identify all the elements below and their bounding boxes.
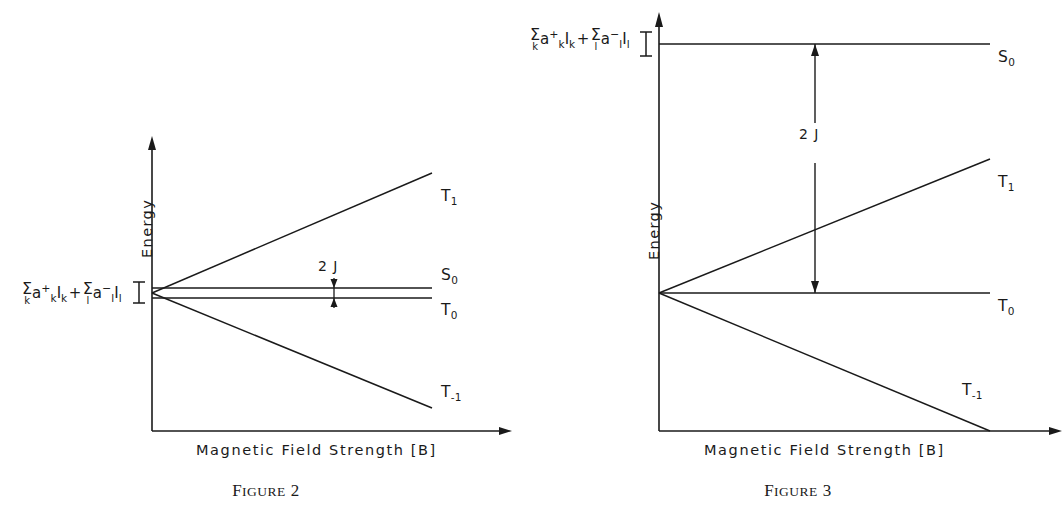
level-line-T-minus-1 [152, 293, 432, 408]
zero-field-energy-expression: Σ k a+kIk + Σ l a−lIl [22, 282, 122, 305]
term-a-plus-k: a+kIk [32, 283, 67, 304]
sigma-l: Σ l [591, 28, 601, 51]
figure-3-plot [532, 0, 1064, 470]
coupling-arrow-2J [331, 278, 338, 308]
plus-operator: + [577, 32, 590, 47]
level-line-T1 [659, 159, 990, 293]
figure-2-caption: FIGURE2 [0, 481, 532, 501]
state-label-S0: S0 [441, 268, 458, 286]
level-line-T-minus-1 [659, 293, 990, 431]
state-label-S0: S0 [998, 50, 1015, 68]
term-a-minus-l: a−lIl [601, 29, 630, 50]
x-axis-label: Magnetic Field Strength [B] [196, 443, 437, 458]
zero-field-bracket [640, 32, 652, 56]
figure-2: Energy Magnetic Field Strength [B] Σ k a… [0, 0, 532, 527]
coupling-label-2J: 2 J [318, 259, 339, 273]
state-label-T1: T1 [998, 175, 1015, 193]
y-axis-label: Energy [647, 201, 662, 260]
term-a-plus-k: a+kIk [540, 29, 575, 50]
figure-3-caption: FIGURE3 [532, 481, 1064, 501]
sigma-k: Σ k [530, 28, 540, 51]
x-axis-label: Magnetic Field Strength [B] [704, 443, 945, 458]
state-label-T1: T1 [441, 189, 458, 207]
figure-3: Energy Magnetic Field Strength [B] Σ k a… [532, 0, 1064, 527]
coupling-arrow-2J [811, 44, 819, 293]
state-label-T-minus-1: T-1 [962, 383, 983, 401]
y-axis [148, 136, 156, 431]
state-label-T0: T0 [998, 299, 1015, 317]
term-a-minus-l: a−lIl [93, 283, 122, 304]
state-label-T0: T0 [441, 303, 458, 321]
y-axis-label: Energy [140, 199, 155, 258]
zero-field-bracket [133, 282, 145, 303]
x-axis [152, 427, 512, 435]
sigma-l: Σ l [83, 282, 93, 305]
coupling-label-2J: 2 J [799, 127, 820, 141]
x-axis [659, 427, 1062, 435]
level-line-T1 [152, 173, 432, 293]
sigma-k: Σ k [22, 282, 32, 305]
zero-field-energy-expression: Σ k a+kIk + Σ l a−lIl [530, 28, 630, 51]
state-label-T-minus-1: T-1 [441, 385, 462, 403]
plus-operator: + [69, 286, 82, 301]
